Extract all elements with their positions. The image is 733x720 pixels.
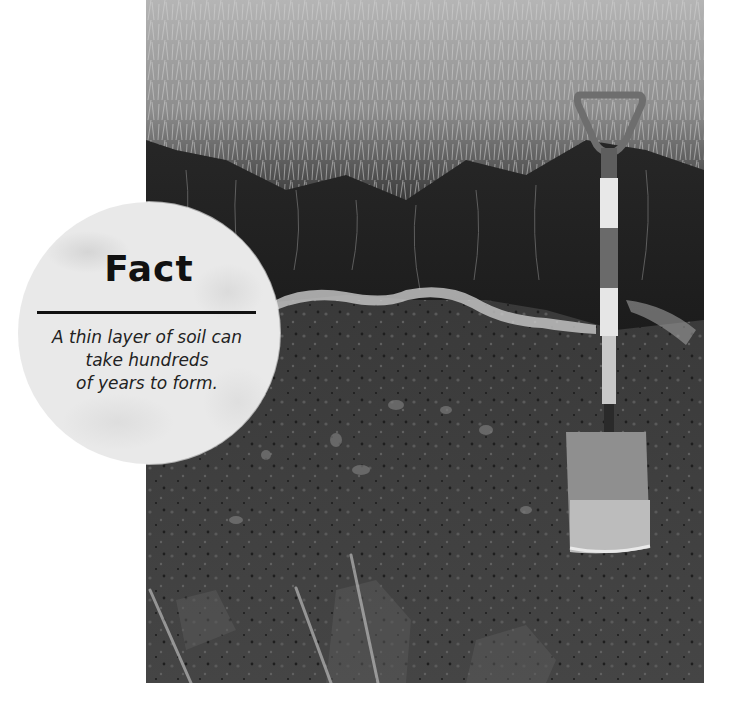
fact-text: A thin layer of soil can take hundreds o… <box>28 326 266 395</box>
fact-title: Fact <box>18 248 280 289</box>
fact-line: A thin layer of soil can <box>28 326 266 349</box>
fact-line: of years to form. <box>28 372 266 395</box>
fact-line: take hundreds <box>28 349 266 372</box>
fact-divider <box>37 311 256 314</box>
fact-box: Fact A thin layer of soil can take hundr… <box>18 202 280 464</box>
